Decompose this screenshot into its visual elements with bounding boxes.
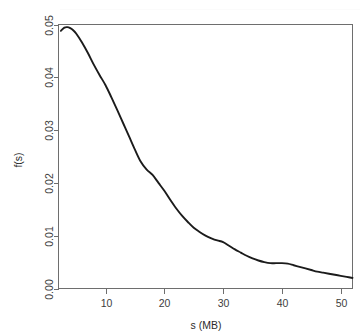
y-tick-label: 0.03 xyxy=(43,120,55,141)
x-axis-tick-labels: 1020304050 xyxy=(101,297,348,309)
y-axis-ticks xyxy=(54,26,59,290)
density-plot: 0.000.010.020.030.040.05 1020304050 s (M… xyxy=(0,0,364,335)
x-tick-label: 20 xyxy=(159,297,171,309)
y-tick-label: 0.00 xyxy=(43,279,55,300)
x-tick-label: 10 xyxy=(101,297,113,309)
y-tick-label: 0.04 xyxy=(43,67,55,88)
x-tick-label: 40 xyxy=(277,297,289,309)
x-axis-title: s (MB) xyxy=(191,319,222,331)
x-tick-label: 50 xyxy=(336,297,348,309)
data-line-fs xyxy=(61,27,353,278)
x-axis-ticks xyxy=(107,289,342,294)
x-tick-label: 30 xyxy=(218,297,230,309)
figure-container: 0.000.010.020.030.040.05 1020304050 s (M… xyxy=(0,0,364,335)
y-tick-label: 0.02 xyxy=(43,173,55,194)
y-tick-label: 0.05 xyxy=(43,15,55,36)
y-axis-title: f(s) xyxy=(12,152,24,167)
plot-box-border xyxy=(59,25,353,289)
y-tick-label: 0.01 xyxy=(43,226,55,247)
y-axis-tick-labels: 0.000.010.020.030.040.05 xyxy=(43,15,55,300)
clipped-header-rule xyxy=(60,9,360,10)
